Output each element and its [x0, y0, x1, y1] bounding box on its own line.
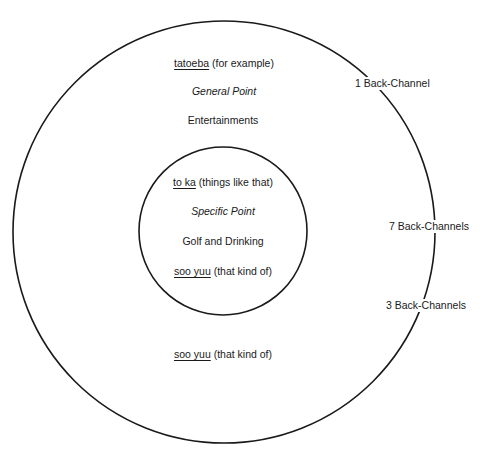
- inner-closing-term: soo yuu: [174, 265, 211, 277]
- inner-marker-soo-yuu: soo yuu (that kind of): [174, 265, 272, 278]
- outer-closing-gloss: (that kind of): [211, 348, 272, 360]
- outer-marker-soo-yuu: soo yuu (that kind of): [174, 348, 272, 361]
- inner-marker-to-ka: to ka (things like that): [173, 176, 273, 189]
- back-channel-count-1: 1 Back-Channel: [354, 77, 431, 90]
- inner-circle: [139, 147, 307, 315]
- entertainments-label: Entertainments: [188, 114, 259, 127]
- outer-marker-gloss: (for example): [209, 57, 274, 69]
- back-channel-count-7: 7 Back-Channels: [388, 220, 470, 233]
- golf-and-drinking-label: Golf and Drinking: [182, 235, 263, 248]
- general-point-label: General Point: [192, 85, 256, 98]
- inner-closing-gloss: (that kind of): [211, 265, 272, 277]
- back-channel-count-3: 3 Back-Channels: [385, 299, 467, 312]
- inner-marker-gloss: (things like that): [196, 176, 273, 188]
- specific-point-label: Specific Point: [191, 205, 255, 218]
- concentric-circles-diagram: tatoeba (for example) General Point Ente…: [0, 0, 490, 461]
- outer-marker-term: tatoeba: [174, 57, 209, 69]
- outer-marker-tatoeba: tatoeba (for example): [174, 57, 274, 70]
- inner-marker-term: to ka: [173, 176, 196, 188]
- outer-closing-term: soo yuu: [174, 348, 211, 360]
